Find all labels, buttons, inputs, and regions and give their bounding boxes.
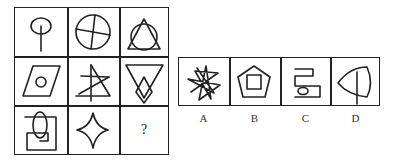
option-c-meander-ellipse-icon[interactable] xyxy=(280,57,330,106)
cell-triangle-circle-icon xyxy=(119,7,169,56)
cell-four-point-star-icon xyxy=(67,105,119,155)
option-c-label: C xyxy=(280,112,331,124)
cell-square-spiral-ellipse-icon xyxy=(14,105,67,155)
option-b-pentagon-square-icon[interactable] xyxy=(229,57,280,106)
option-b-label: B xyxy=(229,112,280,124)
cell-crossed-triangle-icon xyxy=(67,56,119,105)
cell-circle-cross-icon xyxy=(67,7,119,56)
option-d-leaf-line-icon[interactable] xyxy=(330,57,380,106)
option-a-label: A xyxy=(178,112,229,124)
cell-parallelogram-circle-icon xyxy=(14,56,67,105)
cell-inverted-triangle-diamond-icon xyxy=(119,56,169,105)
option-d-label: D xyxy=(330,112,381,124)
missing-cell-question-mark: ? xyxy=(119,105,169,155)
cell-circle-stem-icon xyxy=(14,7,67,56)
option-a-scribble-star-icon[interactable] xyxy=(178,57,229,106)
